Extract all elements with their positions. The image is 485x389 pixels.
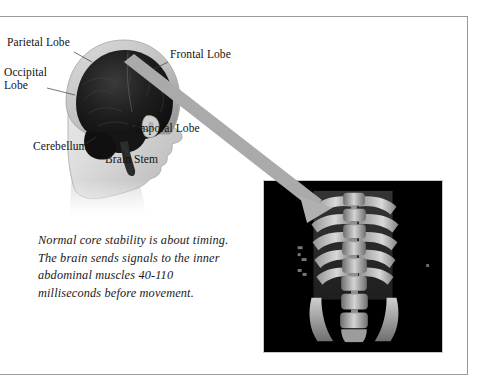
label-occipital-lobe: Occipital Lobe bbox=[4, 66, 47, 92]
figure-caption: Normal core stability is about timing. T… bbox=[38, 232, 238, 302]
label-temporal-lobe: Temporal Lobe bbox=[128, 122, 200, 135]
spine-scan-image bbox=[263, 180, 443, 353]
label-cerebellum: Cerebellum bbox=[33, 140, 88, 153]
label-parietal-lobe: Parietal Lobe bbox=[7, 36, 70, 49]
label-frontal-lobe: Frontal Lobe bbox=[170, 48, 231, 61]
label-brain-stem: Brain Stem bbox=[105, 153, 158, 166]
figure-page: Parietal Lobe Occipital Lobe Frontal Lob… bbox=[0, 0, 485, 389]
